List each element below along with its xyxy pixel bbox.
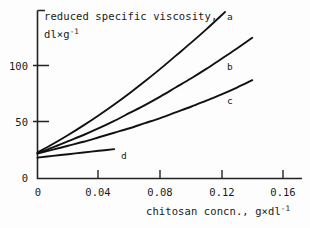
y-axis-title-line2-exponent: -1 bbox=[70, 27, 79, 36]
x-tick-label-0-08: 0.08 bbox=[143, 187, 177, 198]
x-tick-label-0-16: 0.16 bbox=[266, 187, 300, 198]
x-tick-label-0-12: 0.12 bbox=[205, 187, 239, 198]
y-tick-label-100: 100 bbox=[0, 61, 28, 72]
curve-label-c: c bbox=[227, 96, 233, 106]
x-axis-title-exponent: -1 bbox=[281, 204, 290, 213]
x-tick-label-0: 0 bbox=[21, 187, 55, 198]
y-tick-label-50: 50 bbox=[0, 117, 28, 128]
x-axis-title-base: chitosan concn., g×dl bbox=[146, 205, 281, 217]
curve-label-a: a bbox=[227, 12, 233, 22]
y-axis-title-line2-base: dl×g bbox=[44, 28, 70, 40]
x-tick-label-0-04: 0.04 bbox=[81, 187, 115, 198]
x-axis-title: chitosan concn., g×dl-1 bbox=[146, 206, 290, 217]
curve-label-d: d bbox=[121, 151, 127, 161]
curve-label-b: b bbox=[227, 62, 233, 72]
y-tick-label-0: 0 bbox=[0, 173, 28, 184]
series-curve-c bbox=[38, 80, 253, 153]
chart-figure: reduced specific viscosity, dl×g-1 chito… bbox=[0, 0, 310, 228]
y-axis-title-line1: reduced specific viscosity, bbox=[44, 11, 217, 22]
y-axis-title-line2: dl×g-1 bbox=[44, 29, 79, 40]
